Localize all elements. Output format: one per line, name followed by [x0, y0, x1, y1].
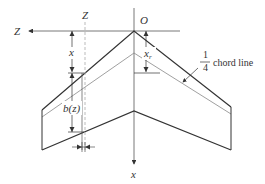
z-station-label: Z — [82, 9, 89, 21]
chord-line-label: chord line — [213, 57, 254, 68]
x-axis-label: x — [130, 168, 136, 180]
z-axis-label: Z — [14, 25, 21, 37]
wing-planform-diagram: Z x O Z x b(z) xr 1 4 chord line — [0, 0, 265, 184]
bz-dimension-label: b(z) — [63, 102, 80, 115]
fraction-denominator: 4 — [203, 62, 208, 73]
x-dimension-label: x — [68, 46, 74, 58]
fraction-numerator: 1 — [203, 49, 208, 60]
origin-label: O — [140, 14, 148, 26]
trailing-edge — [42, 111, 231, 150]
